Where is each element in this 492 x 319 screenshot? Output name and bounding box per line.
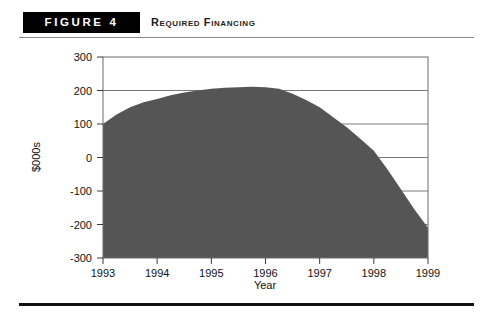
x-tick-label: 1998 [362,267,386,279]
x-tick-label: 1996 [253,267,277,279]
figure-header: FIGURE 4 Required Financing [23,12,469,33]
x-tick-label: 1999 [416,267,440,279]
footer-divider [19,303,474,306]
chart-canvas: 3002001000-100-200-300 19931994199519961… [0,44,492,294]
x-tick-label: 1994 [145,267,169,279]
y-tick-label: -200 [70,219,92,231]
x-axis: 1993199419951996199719981999 [91,258,440,279]
figure-number-badge: FIGURE 4 [23,12,140,33]
y-tick-label: 200 [74,85,92,97]
y-tick-label: 0 [86,152,92,164]
x-tick-label: 1993 [91,267,115,279]
y-tick-label: 100 [74,118,92,130]
y-tick-label: -300 [70,252,92,264]
required-financing-area-chart: 3002001000-100-200-300 19931994199519961… [0,44,492,294]
figure-caption: Required Financing [151,12,256,33]
y-tick-label: 300 [74,51,92,63]
y-tick-label: -100 [70,185,92,197]
header-divider [19,37,474,38]
y-axis: 3002001000-100-200-300 [70,51,103,264]
y-axis-title: $000s [30,142,42,172]
x-axis-title: Year [254,279,277,291]
x-tick-label: 1997 [307,267,331,279]
x-tick-label: 1995 [199,267,223,279]
